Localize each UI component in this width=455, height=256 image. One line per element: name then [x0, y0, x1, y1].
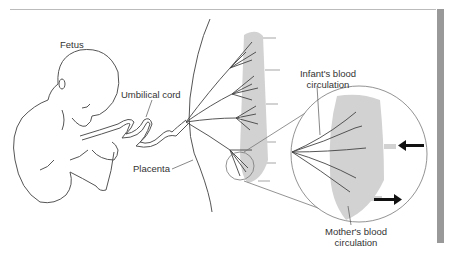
fetus-drawing — [14, 49, 119, 202]
label-mother-blood: Mother's blood circulation — [316, 226, 396, 248]
label-infant-blood: Infant's blood circulation — [288, 68, 368, 90]
label-fetus: Fetus — [60, 39, 84, 50]
uterine-wall — [189, 19, 212, 212]
label-placenta: Placenta — [133, 163, 170, 174]
enlarged-circle — [291, 86, 427, 222]
placenta-tissue — [240, 32, 280, 183]
umbilical-cord — [80, 119, 188, 147]
label-umbilical-cord: Umbilical cord — [121, 89, 181, 100]
